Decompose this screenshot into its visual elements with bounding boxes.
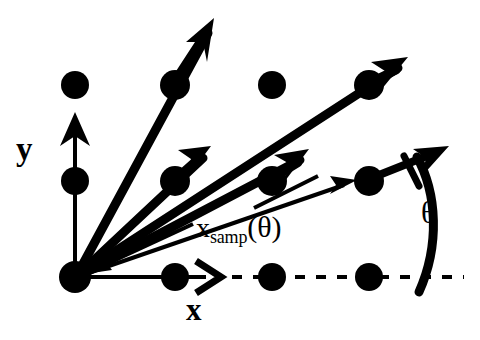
lattice-dot (258, 71, 286, 99)
theta-label: θ (421, 197, 436, 228)
xsamp-argument: θ (257, 210, 271, 243)
figure-root: y x θ xsamp(θ) (0, 0, 480, 340)
xsamp-paren-open: ( (247, 210, 257, 243)
x-axis-label: x (186, 294, 202, 325)
lattice-dot (161, 263, 189, 291)
lattice-dot (355, 263, 383, 291)
xsamp-base: x (196, 212, 210, 243)
lattice-dot (61, 167, 89, 195)
lattice-dot (258, 263, 286, 291)
xsamp-subscript: samp (210, 227, 247, 247)
lattice-dot-origin (59, 261, 91, 293)
y-axis-label: y (16, 133, 33, 166)
diagram-canvas (0, 0, 480, 340)
lattice-dot (61, 71, 89, 99)
xsamp-paren-close: ) (272, 210, 282, 243)
xsamp-label: xsamp(θ) (196, 212, 282, 246)
ray-arrowhead-13deg-icon (330, 176, 357, 194)
